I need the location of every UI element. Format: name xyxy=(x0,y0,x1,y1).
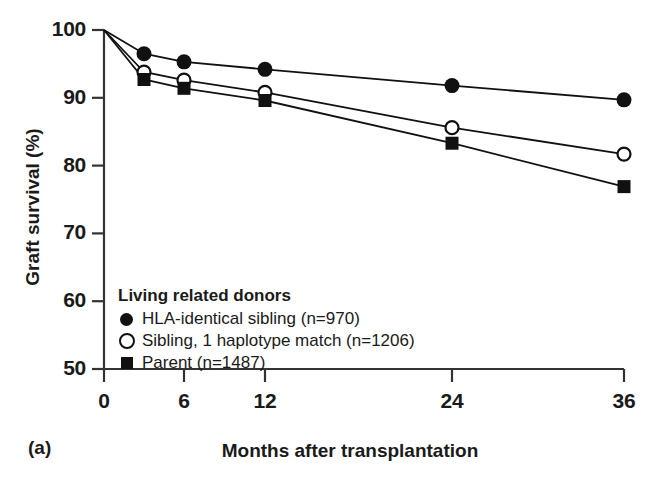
chart-legend: Living related donors HLA-identical sibl… xyxy=(118,286,415,374)
filled-square-marker xyxy=(118,355,135,372)
x-tick-label: 24 xyxy=(422,389,482,413)
legend-item: Parent (n=1487) xyxy=(118,352,415,374)
x-tick-label: 12 xyxy=(235,389,295,413)
x-tick-label: 6 xyxy=(154,389,214,413)
legend-item: Sibling, 1 haplotype match (n=1206) xyxy=(118,330,415,352)
legend-items: HLA-identical sibling (n=970)Sibling, 1 … xyxy=(118,308,415,374)
graft-survival-chart: 1009080706050 06122436 Graft survival (%… xyxy=(0,0,667,481)
x-axis-title: Months after transplantation xyxy=(180,440,520,462)
filled-square-marker xyxy=(138,73,151,86)
filled-square-marker xyxy=(178,82,191,95)
x-tick-label: 36 xyxy=(594,389,654,413)
filled-circle-marker xyxy=(137,46,152,61)
open-circle-marker xyxy=(618,148,631,161)
series-line xyxy=(104,30,624,187)
filled-circle-marker xyxy=(118,311,135,328)
y-tick-label: 50 xyxy=(28,356,86,380)
legend-title: Living related donors xyxy=(118,286,415,306)
legend-item: HLA-identical sibling (n=970) xyxy=(118,308,415,330)
data-series-layer xyxy=(104,30,632,193)
filled-circle-marker xyxy=(177,54,192,69)
open-circle-marker xyxy=(446,121,459,134)
x-tick-label: 0 xyxy=(74,389,134,413)
filled-square-marker xyxy=(446,137,459,150)
filled-square-marker xyxy=(259,94,272,107)
legend-item-label: HLA-identical sibling (n=970) xyxy=(142,309,360,329)
legend-item-label: Sibling, 1 haplotype match (n=1206) xyxy=(142,331,415,351)
y-axis-title: Graft survival (%) xyxy=(22,102,44,312)
legend-item-label: Parent (n=1487) xyxy=(142,353,265,373)
filled-circle-marker xyxy=(445,78,460,93)
panel-label: (a) xyxy=(28,437,51,459)
y-tick-label: 100 xyxy=(28,17,86,41)
filled-circle-marker xyxy=(617,92,632,107)
open-circle-marker xyxy=(118,333,135,350)
filled-square-marker xyxy=(618,180,631,193)
filled-circle-marker xyxy=(258,62,273,77)
